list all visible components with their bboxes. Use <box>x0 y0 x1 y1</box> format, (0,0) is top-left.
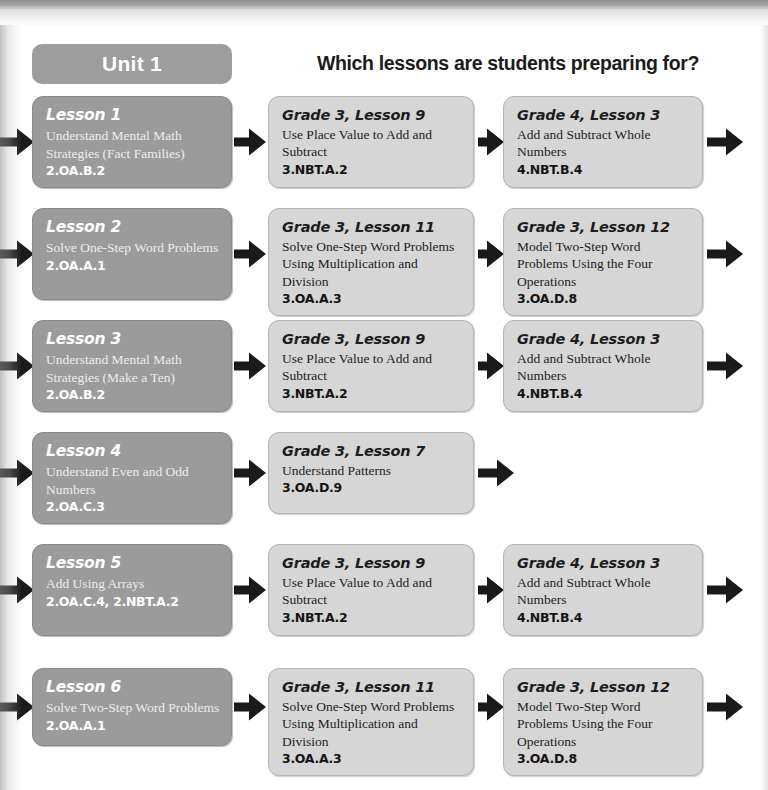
arrow-into-lesson <box>0 351 34 381</box>
target-card: Grade 3, Lesson 11Solve One-Step Word Pr… <box>268 668 474 776</box>
arrow-out-of-row <box>707 351 743 381</box>
lesson-card-standard-code: 2.OA.A.1 <box>46 258 220 274</box>
arrow-target-1-to-target-2 <box>478 575 504 605</box>
target-card-standard-code: 3.NBT.A.2 <box>282 162 462 178</box>
target-card-description: Use Place Value to Add and Subtract <box>282 574 462 609</box>
lesson-card-standard-code: 2.OA.C.3 <box>46 499 220 515</box>
target-card-standard-code: 4.NBT.B.4 <box>517 162 691 178</box>
target-card-title: Grade 3, Lesson 9 <box>282 554 462 572</box>
target-card: Grade 3, Lesson 9Use Place Value to Add … <box>268 320 474 412</box>
lesson-card-title: Lesson 4 <box>46 442 220 461</box>
lesson-card-standard-code: 2.OA.B.2 <box>46 163 220 179</box>
target-card-standard-code: 3.OA.D.9 <box>282 480 462 496</box>
lesson-flow-rows: Lesson 1Understand Mental Math Strategie… <box>0 0 768 790</box>
arrow-out-of-row <box>478 458 514 488</box>
target-card: Grade 4, Lesson 3Add and Subtract Whole … <box>503 544 703 636</box>
target-card-standard-code: 3.NBT.A.2 <box>282 386 462 402</box>
target-card-description: Add and Subtract Whole Numbers <box>517 574 691 609</box>
arrow-target-1-to-target-2 <box>478 351 504 381</box>
target-card-standard-code: 3.OA.D.8 <box>517 751 691 767</box>
arrow-out-of-row <box>707 239 743 269</box>
lesson-card-title: Lesson 5 <box>46 554 220 573</box>
lesson-card: Lesson 5Add Using Arrays2.OA.C.4, 2.NBT.… <box>32 544 232 636</box>
arrow-lesson-to-target-1 <box>234 239 266 269</box>
lesson-card-description: Add Using Arrays <box>46 575 220 592</box>
target-card-standard-code: 3.NBT.A.2 <box>282 610 462 626</box>
lesson-card-standard-code: 2.OA.C.4, 2.NBT.A.2 <box>46 594 220 610</box>
target-card-title: Grade 3, Lesson 11 <box>282 678 462 696</box>
target-card: Grade 4, Lesson 3Add and Subtract Whole … <box>503 96 703 188</box>
lesson-card-standard-code: 2.OA.B.2 <box>46 387 220 403</box>
arrow-lesson-to-target-1 <box>234 575 266 605</box>
lesson-card-title: Lesson 3 <box>46 330 220 349</box>
lesson-card-description: Solve Two-Step Word Problems <box>46 699 220 716</box>
arrow-target-1-to-target-2 <box>478 692 504 722</box>
target-card-description: Use Place Value to Add and Subtract <box>282 126 462 161</box>
target-card-standard-code: 3.OA.A.3 <box>282 291 462 307</box>
lesson-card-standard-code: 2.OA.A.1 <box>46 718 220 734</box>
arrow-out-of-row <box>707 692 743 722</box>
target-card: Grade 3, Lesson 12Model Two-Step Word Pr… <box>503 668 703 776</box>
lesson-card: Lesson 4Understand Even and Odd Numbers2… <box>32 432 232 524</box>
target-card-description: Model Two-Step Word Problems Using the F… <box>517 238 691 290</box>
target-card-standard-code: 4.NBT.B.4 <box>517 386 691 402</box>
arrow-out-of-row <box>707 575 743 605</box>
lesson-card-description: Understand Mental Math Strategies (Make … <box>46 351 220 386</box>
arrow-into-lesson <box>0 127 34 157</box>
target-card-description: Model Two-Step Word Problems Using the F… <box>517 698 691 750</box>
arrow-target-1-to-target-2 <box>478 127 504 157</box>
target-card-title: Grade 3, Lesson 12 <box>517 678 691 696</box>
target-card-standard-code: 4.NBT.B.4 <box>517 610 691 626</box>
target-card-standard-code: 3.OA.D.8 <box>517 291 691 307</box>
arrow-target-1-to-target-2 <box>478 239 504 269</box>
target-card: Grade 3, Lesson 12Model Two-Step Word Pr… <box>503 208 703 316</box>
target-card-description: Add and Subtract Whole Numbers <box>517 126 691 161</box>
page-canvas: Unit 1 Which lessons are students prepar… <box>0 0 768 790</box>
lesson-card-title: Lesson 6 <box>46 678 220 697</box>
arrow-into-lesson <box>0 458 34 488</box>
arrow-lesson-to-target-1 <box>234 351 266 381</box>
lesson-card-description: Understand Mental Math Strategies (Fact … <box>46 127 220 162</box>
target-card-title: Grade 4, Lesson 3 <box>517 554 691 572</box>
target-card: Grade 3, Lesson 9Use Place Value to Add … <box>268 544 474 636</box>
arrow-out-of-row <box>707 127 743 157</box>
lesson-card-title: Lesson 1 <box>46 106 220 125</box>
target-card-title: Grade 3, Lesson 11 <box>282 218 462 236</box>
target-card-standard-code: 3.OA.A.3 <box>282 751 462 767</box>
target-card: Grade 3, Lesson 7Understand Patterns3.OA… <box>268 432 474 514</box>
lesson-card: Lesson 3Understand Mental Math Strategie… <box>32 320 232 412</box>
target-card-description: Solve One-Step Word Problems Using Multi… <box>282 238 462 290</box>
target-card-description: Solve One-Step Word Problems Using Multi… <box>282 698 462 750</box>
arrow-lesson-to-target-1 <box>234 458 266 488</box>
target-card-title: Grade 3, Lesson 9 <box>282 330 462 348</box>
arrow-into-lesson <box>0 239 34 269</box>
target-card-title: Grade 3, Lesson 12 <box>517 218 691 236</box>
target-card: Grade 3, Lesson 11Solve One-Step Word Pr… <box>268 208 474 316</box>
target-card-description: Add and Subtract Whole Numbers <box>517 350 691 385</box>
lesson-card-title: Lesson 2 <box>46 218 220 237</box>
target-card: Grade 4, Lesson 3Add and Subtract Whole … <box>503 320 703 412</box>
lesson-card-description: Understand Even and Odd Numbers <box>46 463 220 498</box>
target-card-description: Understand Patterns <box>282 462 462 479</box>
target-card-title: Grade 3, Lesson 7 <box>282 442 462 460</box>
arrow-lesson-to-target-1 <box>234 692 266 722</box>
lesson-card: Lesson 2Solve One-Step Word Problems2.OA… <box>32 208 232 300</box>
lesson-card-description: Solve One-Step Word Problems <box>46 239 220 256</box>
lesson-card: Lesson 1Understand Mental Math Strategie… <box>32 96 232 188</box>
arrow-into-lesson <box>0 692 34 722</box>
target-card: Grade 3, Lesson 9Use Place Value to Add … <box>268 96 474 188</box>
target-card-description: Use Place Value to Add and Subtract <box>282 350 462 385</box>
target-card-title: Grade 4, Lesson 3 <box>517 106 691 124</box>
arrow-lesson-to-target-1 <box>234 127 266 157</box>
lesson-card: Lesson 6Solve Two-Step Word Problems2.OA… <box>32 668 232 746</box>
arrow-into-lesson <box>0 575 34 605</box>
target-card-title: Grade 4, Lesson 3 <box>517 330 691 348</box>
target-card-title: Grade 3, Lesson 9 <box>282 106 462 124</box>
